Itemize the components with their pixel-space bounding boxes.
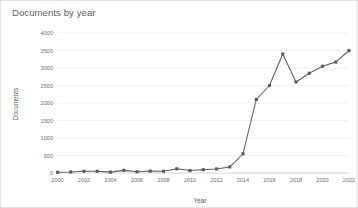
y-tick-label: 3000 xyxy=(41,65,53,71)
x-tick-label: 2020 xyxy=(316,177,328,183)
line-chart-plot: 05001000150020002500300035004000 2000200… xyxy=(1,1,358,208)
x-tick-label: 2008 xyxy=(157,177,169,183)
y-tick-label: 2000 xyxy=(41,100,53,106)
x-tick-label: 2004 xyxy=(104,177,116,183)
gridlines-group xyxy=(58,33,350,173)
y-tick-label: 0 xyxy=(50,170,53,176)
y-tick-label: 4000 xyxy=(41,30,53,36)
data-point-marker xyxy=(56,171,59,174)
data-point-marker xyxy=(255,98,258,101)
data-point-marker xyxy=(122,169,125,172)
data-point-marker xyxy=(347,49,350,52)
x-tick-label: 2006 xyxy=(131,177,143,183)
data-point-marker xyxy=(82,170,85,173)
y-axis-title: Documents xyxy=(12,88,19,120)
data-point-marker xyxy=(175,167,178,170)
series-line-documents xyxy=(58,51,350,173)
data-point-marker xyxy=(308,72,311,75)
data-point-marker xyxy=(268,84,271,87)
y-tick-label: 1500 xyxy=(41,118,53,124)
data-point-marker xyxy=(294,80,297,83)
x-tick-label: 2000 xyxy=(51,177,63,183)
data-point-marker xyxy=(96,170,99,173)
y-axis-ticks-group: 05001000150020002500300035004000 xyxy=(41,30,53,176)
data-point-marker xyxy=(69,170,72,173)
data-point-marker xyxy=(281,52,284,55)
x-tick-label: 2010 xyxy=(184,177,196,183)
y-tick-label: 3500 xyxy=(41,48,53,54)
x-tick-label: 2014 xyxy=(237,177,249,183)
data-point-marker xyxy=(135,170,138,173)
data-point-marker xyxy=(149,170,152,173)
x-tick-label: 2016 xyxy=(263,177,275,183)
data-point-marker xyxy=(241,152,244,155)
data-point-marker xyxy=(321,65,324,68)
x-tick-label: 2002 xyxy=(78,177,90,183)
data-point-marker xyxy=(202,168,205,171)
y-tick-label: 2500 xyxy=(41,83,53,89)
x-axis-ticks-group: 2000200220042006200820102012201420162018… xyxy=(51,177,355,183)
chart-container: Documents by year 0500100015002000250030… xyxy=(0,0,358,208)
data-point-marker xyxy=(334,61,337,64)
data-point-marker xyxy=(215,167,218,170)
data-point-marker xyxy=(228,166,231,169)
x-tick-label: 2022 xyxy=(343,177,355,183)
data-point-marker xyxy=(162,170,165,173)
y-tick-label: 500 xyxy=(44,153,53,159)
x-axis-title: Year xyxy=(194,197,208,204)
data-point-marker xyxy=(188,169,191,172)
x-tick-label: 2012 xyxy=(210,177,222,183)
data-point-marker xyxy=(109,171,112,174)
y-tick-label: 1000 xyxy=(41,135,53,141)
x-tick-label: 2018 xyxy=(290,177,302,183)
